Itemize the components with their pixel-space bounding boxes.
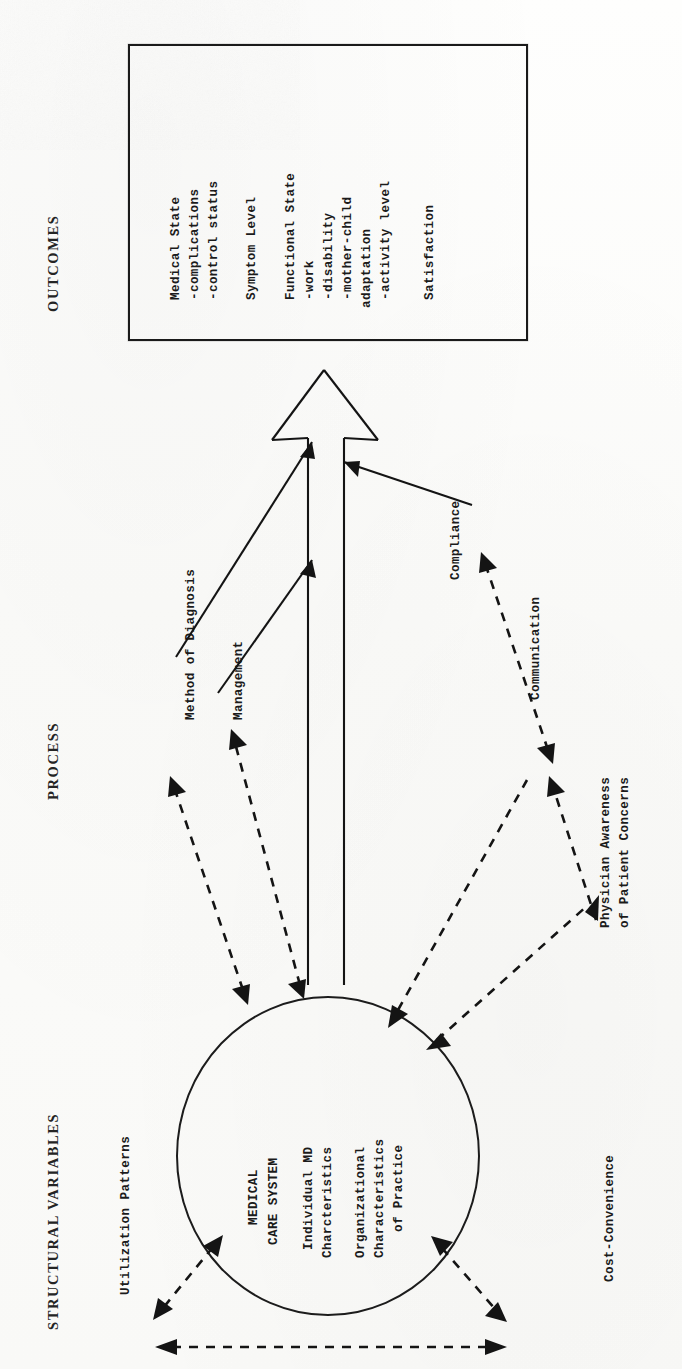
dashed-arrow-circle-to-communication	[388, 780, 527, 1028]
hollow-block-arrow-to-outcomes	[272, 370, 378, 985]
solid-arrow-compliance	[344, 461, 472, 505]
dashed-arrow-awareness-to-communication	[547, 776, 596, 920]
solid-arrow-method-of-diagnosis	[176, 442, 315, 657]
dashed-arrow-circle-to-management	[229, 729, 306, 999]
dashed-arrow-circle-to-utilization-patterns	[153, 1235, 223, 1320]
diagram-linework	[0, 0, 682, 1369]
dashed-arrow-circle-to-physician-awareness	[426, 895, 599, 1050]
dashed-arrow-circle-to-cost-convenience	[431, 1236, 507, 1322]
dashed-arrow-communication-to-compliance	[479, 552, 555, 764]
dashed-arrow-utilization-to-cost	[155, 1339, 507, 1355]
dashed-arrow-circle-to-method-of-diagnosis	[168, 776, 250, 1005]
solid-arrow-management	[218, 560, 316, 693]
